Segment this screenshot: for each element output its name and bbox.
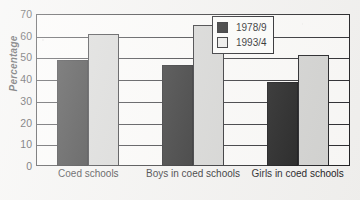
legend-item: 1978/9	[217, 20, 267, 35]
y-tick-label-10: 10	[2, 138, 32, 150]
legend-swatch-icon	[217, 37, 228, 48]
legend-label: 1993/4	[236, 37, 267, 48]
x-tick-label: Coed schools	[36, 168, 141, 179]
x-tick-label: Girls in coed schools	[245, 168, 350, 179]
legend-item: 1993/4	[217, 35, 267, 50]
legend-label: 1978/9	[236, 22, 267, 33]
y-axis-tick-labels: 010203040506070	[0, 14, 36, 166]
y-tick-label-50: 50	[2, 51, 32, 63]
y-tick-label-0: 0	[2, 160, 32, 172]
y-tick-label-30: 30	[2, 95, 32, 107]
bar	[298, 55, 329, 166]
y-tick-label-20: 20	[2, 117, 32, 129]
y-tick-label-60: 60	[2, 30, 32, 42]
bar-chart: Percentage 010203040506070 Coed schoolsB…	[0, 0, 360, 200]
y-tick-label-70: 70	[2, 8, 32, 20]
bars-layer	[36, 14, 350, 166]
y-tick-label-40: 40	[2, 73, 32, 85]
legend-swatch-icon	[217, 22, 228, 33]
bar	[267, 82, 298, 166]
bar	[88, 34, 119, 166]
bar	[162, 65, 193, 166]
chart-legend: 1978/91993/4	[212, 16, 274, 54]
x-axis-tick-labels: Coed schoolsBoys in coed schoolsGirls in…	[36, 168, 350, 179]
x-tick-label: Boys in coed schools	[141, 168, 246, 179]
bar	[57, 60, 88, 166]
bar-group	[36, 14, 141, 166]
